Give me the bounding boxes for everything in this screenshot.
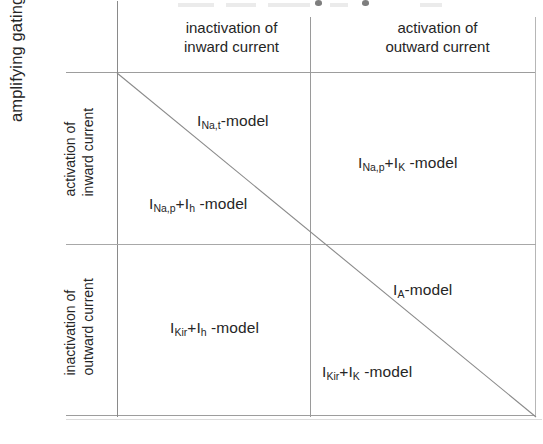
- cell-text-suffix: -model: [405, 154, 457, 171]
- cell-text-suffix: -model: [360, 363, 412, 380]
- cell-text-sub1: A: [397, 288, 404, 300]
- column-header-line2: outward current: [340, 37, 535, 56]
- cell-text-suffix: -model: [404, 281, 452, 298]
- cell-text-sub1: Kir: [326, 370, 339, 382]
- cell-text-sub1: Na,t: [201, 119, 220, 131]
- scan-artifact: [330, 3, 348, 7]
- cell-text-mid: +I: [187, 319, 201, 336]
- column-header-activation-outward: activation of outward current: [340, 18, 535, 56]
- cell-text-mid: +I: [176, 195, 190, 212]
- cell-text-suffix: -model: [207, 319, 259, 336]
- cell-text-sub1: Kir: [174, 326, 187, 338]
- axis-caption-amplifying-gating-variables: amplifying gating variables: [3, 0, 29, 122]
- cell-label-kir-k-model: IKir+IK -model: [322, 363, 412, 381]
- scan-artifact: [178, 3, 214, 7]
- scan-artifact: [362, 0, 369, 6]
- cell-label-na-p-h-model: INa,p+Ih -model: [149, 195, 247, 213]
- cell-label-na-p-k-model: INa,p+IK -model: [358, 154, 458, 172]
- model-classification-figure: amplifying gating variables activation o…: [0, 0, 543, 444]
- cell-text-sub2: h: [189, 202, 195, 214]
- cell-text-sub2: K: [398, 161, 405, 173]
- cell-text-suffix: -model: [195, 195, 247, 212]
- column-header-inactivation-inward: inactivation of inward current: [134, 18, 329, 56]
- cell-text-sub2: K: [353, 370, 360, 382]
- cell-text-sub1: Na,p: [153, 202, 175, 214]
- cell-label-kir-h-model: IKir+Ih -model: [170, 319, 259, 337]
- scan-artifact: [226, 3, 256, 7]
- cell-label-na-t-model: INa,t-model: [197, 112, 269, 130]
- column-header-line1: activation of: [340, 18, 535, 37]
- cell-text-sub1: Na,p: [362, 161, 384, 173]
- column-header-line1: inactivation of: [134, 18, 329, 37]
- scan-artifact: [420, 3, 442, 7]
- column-header-line2: inward current: [134, 37, 329, 56]
- scan-artifact: [315, 0, 322, 6]
- matrix-frame: INa,t-model INa,p+Ih -model INa,p+IK -mo…: [66, 72, 536, 416]
- scan-artifact: [268, 3, 310, 7]
- cell-text-suffix: -model: [221, 112, 269, 129]
- cell-text-sub2: h: [201, 326, 207, 338]
- cell-text-mid: +I: [385, 154, 399, 171]
- cell-text-mid: +I: [339, 363, 353, 380]
- cell-label-a-model: IA-model: [393, 281, 452, 299]
